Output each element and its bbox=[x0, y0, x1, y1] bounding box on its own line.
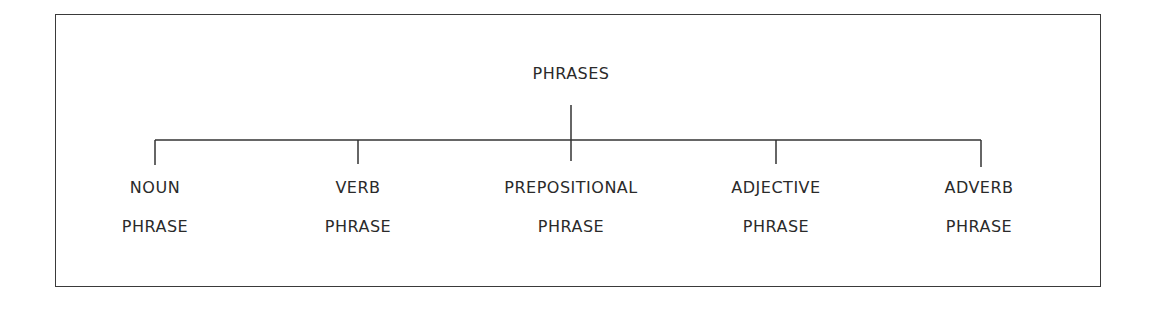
node-label-line2: PHRASE bbox=[731, 207, 820, 246]
node-noun-phrase: NOUN PHRASE bbox=[122, 168, 188, 246]
node-label-line1: NOUN bbox=[122, 168, 188, 207]
node-adverb-phrase: ADVERB PHRASE bbox=[944, 168, 1013, 246]
node-verb-phrase: VERB PHRASE bbox=[325, 168, 391, 246]
tree-connectors bbox=[0, 0, 1156, 311]
node-label-line1: ADJECTIVE bbox=[731, 168, 820, 207]
node-label-line2: PHRASE bbox=[504, 207, 637, 246]
node-label-line1: VERB bbox=[325, 168, 391, 207]
root-node-label: PHRASES bbox=[532, 63, 609, 85]
node-label-line2: PHRASE bbox=[944, 207, 1013, 246]
node-label-line1: ADVERB bbox=[944, 168, 1013, 207]
node-label-line2: PHRASE bbox=[325, 207, 391, 246]
node-label-line1: PREPOSITIONAL bbox=[504, 168, 637, 207]
node-label-line2: PHRASE bbox=[122, 207, 188, 246]
node-adjective-phrase: ADJECTIVE PHRASE bbox=[731, 168, 820, 246]
node-prepositional-phrase: PREPOSITIONAL PHRASE bbox=[504, 168, 637, 246]
